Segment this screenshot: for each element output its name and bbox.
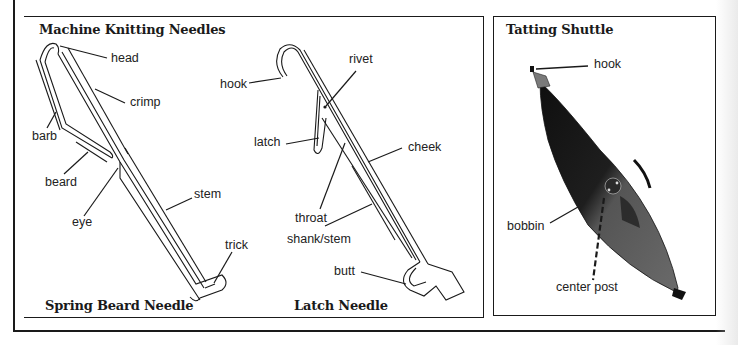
leader-trick [214, 252, 232, 283]
latch-needle-butt-inner [409, 268, 426, 286]
center-post-highlight [608, 189, 611, 192]
leader-butt [361, 272, 406, 284]
center-post-highlight [616, 182, 619, 185]
needle-beard-outer [40, 60, 112, 158]
label-hook: hook [220, 77, 247, 91]
leader-barb [47, 112, 56, 128]
label-shuttle-hook: hook [594, 57, 621, 71]
leader-crimp [95, 89, 125, 103]
label-beard: beard [45, 175, 77, 189]
label-stem: stem [194, 187, 221, 201]
label-trick: trick [225, 238, 248, 252]
diagram-figure: Machine Knitting Needles Tatting Shuttle [0, 0, 738, 345]
shuttle-edge-highlight [634, 160, 650, 188]
leader-stem [166, 198, 192, 210]
leader-eye [84, 168, 118, 216]
page-edge-shadow [716, 0, 738, 345]
needle-eye-line [120, 162, 200, 300]
label-shank-stem: shank/stem [287, 232, 351, 246]
shuttle-center-post [605, 178, 621, 194]
spring-beard-leaders [47, 46, 232, 283]
latch-needle-caption: Latch Needle [294, 298, 388, 313]
latch-needle-butt [403, 262, 464, 300]
label-crimp: crimp [130, 95, 161, 109]
tatting-shuttle-drawing [530, 66, 686, 300]
label-eye: eye [72, 215, 92, 229]
needle-head-inner [45, 48, 54, 62]
leader-shuttle-hook [536, 66, 588, 69]
needle-stem-right [125, 148, 206, 282]
latch-needle-drawing [277, 45, 464, 300]
needle-stem-inner [62, 52, 204, 288]
leader-beard [64, 152, 88, 174]
shuttle-tip-bottom [672, 288, 686, 300]
label-barb: barb [32, 129, 57, 143]
label-bobbin: bobbin [507, 219, 545, 233]
label-throat: throat [295, 211, 327, 225]
needle-head [40, 43, 59, 60]
spring-beard-needle-caption: Spring Beard Needle [45, 298, 193, 313]
leader-bobbin [550, 207, 578, 223]
needle-stem-outer [58, 54, 226, 301]
leader-hook [249, 78, 281, 83]
needle-trick [205, 284, 215, 288]
label-center-post: center post [556, 280, 618, 294]
label-head: head [111, 51, 139, 65]
label-cheek: cheek [408, 140, 441, 154]
spring-beard-needle-drawing [36, 43, 226, 300]
shuttle-tip-top [533, 72, 550, 88]
label-butt: butt [334, 264, 355, 278]
leader-shank [325, 204, 372, 226]
shuttle-hook-tip [530, 66, 534, 72]
leader-cheek [368, 148, 402, 162]
leader-rivet [326, 71, 356, 106]
leader-throat [320, 143, 345, 209]
label-latch: latch [254, 135, 280, 149]
leader-head [60, 46, 107, 58]
latch-needle-groove [352, 166, 395, 240]
label-rivet: rivet [349, 52, 373, 66]
